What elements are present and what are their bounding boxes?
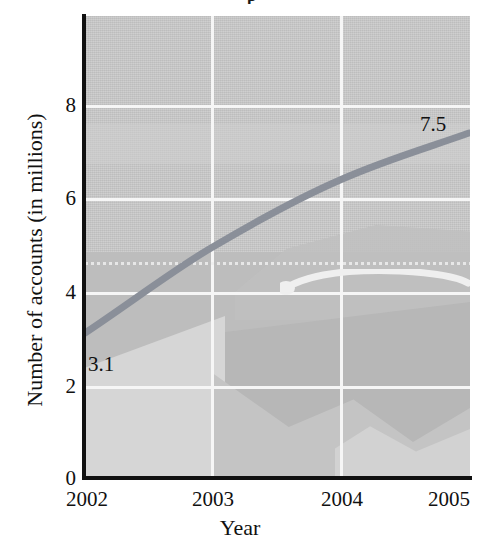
scan-artifact-streak bbox=[280, 269, 470, 295]
gridline-y-8 bbox=[85, 105, 470, 108]
scan-artifact-wave-bottom bbox=[335, 408, 470, 478]
x-tick-label-2004: 2004 bbox=[321, 487, 363, 512]
x-tick-label-2003: 2003 bbox=[192, 487, 234, 512]
y-axis-line bbox=[82, 14, 86, 480]
data-label-end: 7.5 bbox=[420, 112, 446, 137]
data-series-line bbox=[85, 16, 470, 478]
scan-artifact-dotted-line bbox=[85, 262, 470, 265]
x-axis-title: Year bbox=[0, 515, 480, 541]
scan-artifact-shape-left bbox=[85, 316, 225, 478]
scan-artifact-shape-right bbox=[211, 302, 470, 478]
scan-artifact-band-top bbox=[85, 124, 470, 164]
scan-artifact-wave-lower bbox=[211, 372, 470, 478]
x-tick-label-2002: 2002 bbox=[66, 487, 108, 512]
plot-area bbox=[85, 16, 470, 478]
gridline-x-2004 bbox=[340, 16, 343, 478]
scan-artifact-band-lower bbox=[85, 252, 470, 478]
x-axis-line bbox=[82, 476, 472, 480]
gridline-y-2 bbox=[85, 386, 470, 389]
gridline-x-2003 bbox=[211, 16, 214, 478]
scan-artifact-shape-mid bbox=[235, 212, 470, 320]
chart-title-fragment: p bbox=[192, 0, 312, 4]
x-tick-label-2005: 2005 bbox=[428, 487, 470, 512]
chart-figure: p bbox=[0, 0, 480, 546]
paper-grain-texture bbox=[85, 16, 470, 478]
gridline-y-6 bbox=[85, 198, 470, 201]
data-label-start: 3.1 bbox=[88, 352, 114, 377]
y-axis-title: Number of accounts (in millions) bbox=[22, 45, 48, 475]
gridline-y-4 bbox=[85, 292, 470, 295]
